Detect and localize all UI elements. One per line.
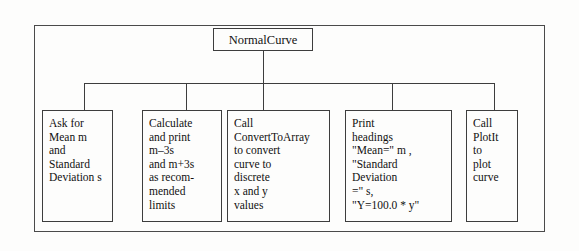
module-box-call-plotit: Call PlotIt to plot curve <box>466 110 518 222</box>
connector-horizontal-bus <box>84 83 495 84</box>
connector-drop-print-headings <box>392 83 393 110</box>
module-box-print-headings: Print headings "Mean=" m , "Standard Dev… <box>345 110 452 222</box>
module-box-calculate-limits: Calculate and print m–3s and m+3s as rec… <box>142 110 222 222</box>
module-label-call-converttoarray: Call ConvertToArray to convert curve to … <box>234 117 329 212</box>
module-box-normalcurve: NormalCurve <box>213 28 313 51</box>
connector-drop-calculate-limits <box>186 83 187 110</box>
module-box-call-converttoarray: Call ConvertToArray to convert curve to … <box>227 110 330 222</box>
connector-drop-ask-for-input <box>84 83 85 110</box>
connector-drop-call-converttoarray <box>263 83 264 110</box>
module-label-print-headings: Print headings "Mean=" m , "Standard Dev… <box>352 117 451 212</box>
module-label-ask-for-input: Ask for Mean m and Standard Deviation s <box>49 117 112 185</box>
module-label-normalcurve: NormalCurve <box>214 33 312 46</box>
connector-drop-call-plotit <box>494 83 495 110</box>
module-label-call-plotit: Call PlotIt to plot curve <box>473 117 517 185</box>
module-label-calculate-limits: Calculate and print m–3s and m+3s as rec… <box>149 117 221 212</box>
module-box-ask-for-input: Ask for Mean m and Standard Deviation s <box>42 110 113 222</box>
connector-root-stem <box>263 51 264 83</box>
structure-chart-figure: NormalCurve Ask for Mean m and Standard … <box>0 0 579 251</box>
